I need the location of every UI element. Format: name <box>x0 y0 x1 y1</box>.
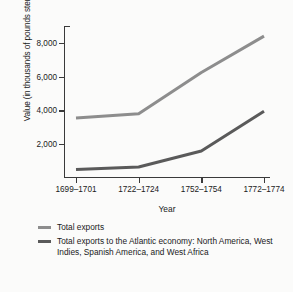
y-tick-label: 8,000 <box>37 38 58 47</box>
y-tick-label: 4,000 <box>37 106 58 115</box>
x-tick-label: 1772–1774 <box>244 185 285 194</box>
legend-swatch-total-exports <box>38 226 51 229</box>
x-tick-label: 1699–1701 <box>56 185 97 194</box>
x-tick-label: 1722–1724 <box>118 185 159 194</box>
y-axis-title: Value (in thousands of pounds sterling) <box>23 0 32 138</box>
legend-label-total-exports: Total exports <box>57 222 104 232</box>
series-lines <box>64 26 270 178</box>
chart-figure: Value (in thousands of pounds sterling) … <box>0 0 293 292</box>
y-tick-label: 6,000 <box>37 72 58 81</box>
line-atlantic-economy <box>76 111 264 169</box>
chart-legend: Total exports Total exports to the Atlan… <box>38 222 288 261</box>
y-tick-label: 2,000 <box>37 140 58 149</box>
legend-item-total-exports: Total exports <box>38 222 288 232</box>
x-tick <box>139 178 140 183</box>
line-total-exports <box>76 36 264 118</box>
legend-swatch-atlantic-economy <box>38 240 51 243</box>
x-tick <box>264 178 265 183</box>
x-tick <box>201 178 202 183</box>
x-axis-title: Year <box>64 204 270 214</box>
x-tick <box>76 178 77 183</box>
legend-item-atlantic-economy: Total exports to the Atlantic economy: N… <box>38 236 288 257</box>
x-tick-label: 1752–1754 <box>181 185 222 194</box>
plot-area: 2,0004,0006,0008,000 1699–17011722–17241… <box>64 26 270 178</box>
legend-label-atlantic-economy: Total exports to the Atlantic economy: N… <box>57 236 288 257</box>
